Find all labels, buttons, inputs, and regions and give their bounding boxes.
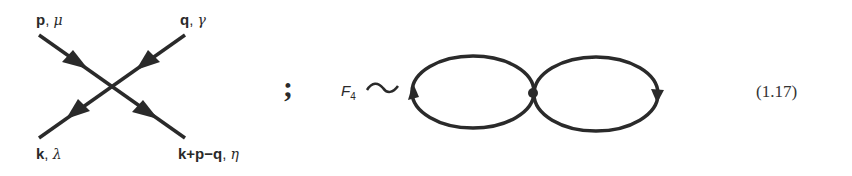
label-bottom-left: k, λ bbox=[36, 146, 62, 161]
semicolon-separator: ; bbox=[283, 72, 293, 102]
diagram-graphics bbox=[0, 0, 852, 176]
momentum-q: q bbox=[180, 11, 189, 28]
momentum-k-plus-p-minus-q: k+p−q bbox=[178, 145, 222, 162]
momentum-p: p bbox=[36, 11, 45, 28]
arrow-left-loop-icon bbox=[408, 83, 419, 100]
left-loop bbox=[412, 56, 534, 128]
index-lambda: λ bbox=[53, 146, 62, 162]
feynman-diagram-figure: p, μ q, γ k, λ k+p−q, η ; F4 (1.17) bbox=[0, 0, 852, 176]
similar-to-wave-icon bbox=[367, 84, 398, 92]
index-gamma: γ bbox=[198, 12, 206, 28]
arrow-right-loop-icon bbox=[651, 89, 664, 103]
vertex-dot-icon bbox=[528, 88, 538, 98]
label-top-right: q, γ bbox=[180, 12, 206, 27]
arrow-q-icon bbox=[136, 50, 160, 70]
arrow-k-icon bbox=[66, 99, 90, 119]
function-symbol: F bbox=[341, 82, 350, 99]
equation-number: (1.17) bbox=[756, 83, 797, 100]
function-label: F4 bbox=[341, 83, 356, 102]
index-mu: μ bbox=[54, 12, 63, 28]
function-subscript: 4 bbox=[350, 91, 356, 102]
label-bottom-right: k+p−q, η bbox=[178, 146, 239, 161]
label-top-left: p, μ bbox=[36, 12, 63, 27]
right-loop bbox=[534, 57, 658, 131]
index-eta: η bbox=[231, 146, 239, 162]
